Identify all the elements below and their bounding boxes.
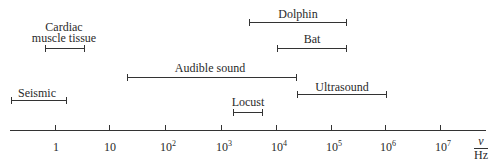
- axis-tick: [55, 125, 56, 130]
- range-bar-dolphin: [249, 22, 347, 23]
- axis-tick: [440, 125, 441, 130]
- range-bar-locust: [233, 112, 263, 113]
- axis-unit: Hz: [474, 148, 488, 162]
- range-bar-seismic: [11, 100, 67, 101]
- range-label-dolphin: Dolphin: [278, 8, 317, 20]
- range-label-bat: Bat: [304, 33, 321, 45]
- axis-tick: [221, 125, 222, 130]
- axis-tick-label: 102: [160, 141, 176, 153]
- range-bar-cardiac: [45, 48, 85, 49]
- axis-tick: [385, 125, 386, 130]
- axis-tick: [276, 125, 277, 130]
- range-label-cardiac-line2: muscle tissue: [32, 32, 96, 44]
- axis-unit-symbol: ν: [474, 135, 488, 149]
- axis-tick-label: 104: [271, 141, 287, 153]
- frequency-axis: [10, 130, 486, 131]
- axis-tick-label: 10: [104, 141, 116, 153]
- axis-tick-label: 103: [216, 141, 232, 153]
- axis-unit-label: ν Hz: [474, 135, 488, 162]
- axis-tick-label: 105: [326, 141, 342, 153]
- range-label-seismic: Seismic: [18, 87, 56, 99]
- axis-tick: [331, 125, 332, 130]
- axis-tick-label: 1: [53, 141, 59, 153]
- axis-tick: [109, 125, 110, 130]
- range-label-ultrasound: Ultrasound: [315, 81, 368, 93]
- range-bar-audible: [127, 77, 297, 78]
- axis-tick: [165, 125, 166, 130]
- range-bar-bat: [277, 48, 347, 49]
- range-bar-ultrasound: [297, 94, 387, 95]
- axis-tick-label: 107: [435, 141, 451, 153]
- range-label-locust: Locust: [232, 96, 265, 108]
- axis-tick-label: 106: [380, 141, 396, 153]
- range-label-audible: Audible sound: [175, 62, 245, 74]
